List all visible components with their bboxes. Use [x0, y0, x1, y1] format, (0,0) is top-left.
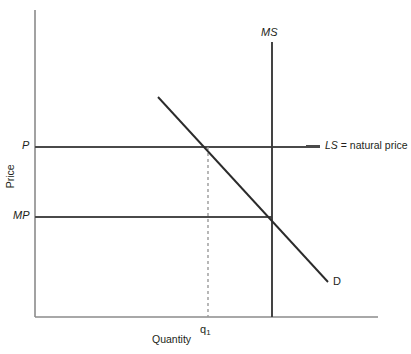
q1-subscript: 1: [206, 328, 210, 337]
demand-label: D: [333, 276, 341, 287]
ls-legend-text: = natural price: [341, 139, 408, 151]
demand-curve: [158, 97, 328, 282]
ms-label: MS: [261, 27, 278, 38]
market-price-label: MP: [13, 210, 30, 221]
q1-tick-label: q1: [200, 324, 211, 335]
chart-canvas: [0, 0, 411, 354]
price-level-label: P: [22, 140, 29, 151]
y-axis-title: Price: [5, 153, 16, 199]
ls-legend: LS = natural price: [325, 140, 408, 151]
economics-supply-demand-figure: MS D P MP Price Quantity q1 LS = natural…: [0, 0, 411, 354]
x-axis-title: Quantity: [152, 334, 191, 345]
ls-legend-symbol: LS: [325, 139, 338, 151]
